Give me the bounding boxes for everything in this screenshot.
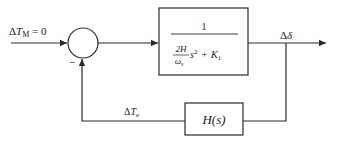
forward-den-coef-den: ωs: [175, 56, 184, 67]
input-label: ΔTM = 0: [9, 25, 47, 39]
output-label: Δδ: [280, 29, 293, 41]
feedback-takeoff-line: [243, 43, 286, 121]
forward-den-rest: s2+K1: [190, 48, 222, 62]
feedback-block-label: H(s): [201, 112, 225, 127]
block-diagram: ΔTM = 0 − 1 2H ωs s2+K1 Δδ H(s) ΔTe: [0, 0, 339, 142]
forward-den-coef-num: 2H: [176, 44, 188, 54]
summing-junction: [68, 28, 98, 58]
forward-numerator: 1: [202, 21, 207, 32]
forward-transfer-block: [159, 8, 248, 75]
feedback-minus-sign: −: [69, 56, 75, 68]
feedback-signal-label: ΔTe: [124, 106, 139, 119]
